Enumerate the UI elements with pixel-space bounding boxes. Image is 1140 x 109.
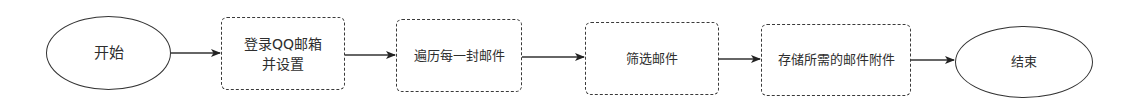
end-node[interactable]: 结束 <box>955 26 1093 98</box>
login-setup-node-label: 登录QQ邮箱 并设置 <box>244 34 322 74</box>
filter-emails-node-label: 筛选邮件 <box>626 49 678 69</box>
iterate-emails-node-label: 遍历每一封邮件 <box>414 46 505 66</box>
start-node[interactable]: 开始 <box>46 16 171 90</box>
login-setup-node[interactable]: 登录QQ邮箱 并设置 <box>221 17 345 90</box>
start-node-label: 开始 <box>94 43 124 63</box>
iterate-emails-node[interactable]: 遍历每一封邮件 <box>396 19 522 92</box>
end-node-label: 结束 <box>1011 52 1037 72</box>
flowchart-canvas: 开始 登录QQ邮箱 并设置 遍历每一封邮件 筛选邮件 存储所需的邮件附件 结束 <box>0 0 1140 109</box>
filter-emails-node[interactable]: 筛选邮件 <box>585 22 719 95</box>
store-attachments-node-label: 存储所需的邮件附件 <box>778 50 895 70</box>
store-attachments-node[interactable]: 存储所需的邮件附件 <box>761 24 911 96</box>
